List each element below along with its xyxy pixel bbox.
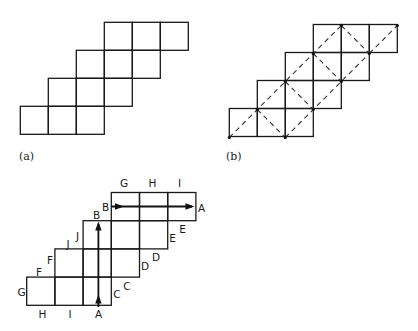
panel-b <box>228 24 399 139</box>
label-e-upper: E <box>179 223 186 235</box>
panel-c-square-r3-c1 <box>55 249 83 277</box>
label-bottom-h: H <box>39 308 47 320</box>
panel-label-b: (b) <box>226 150 242 163</box>
fold-line-dashed <box>341 26 369 54</box>
label-f-upper: F <box>47 254 53 266</box>
panel-c-square-r2-c2 <box>111 221 139 249</box>
label-bottom-i: I <box>68 308 71 320</box>
label-d-lower: D <box>141 260 149 272</box>
panel-c-square-r3-c3 <box>111 249 139 277</box>
label-e-lower: E <box>169 232 176 244</box>
vertex-dot <box>256 108 259 111</box>
panel-c-square-r4-c1 <box>27 277 55 305</box>
fold-line-dashed <box>285 82 313 110</box>
label-c-upper: C <box>123 280 130 292</box>
fold-line-dashed <box>369 26 397 54</box>
panel-c-square-r2-c3 <box>140 221 168 249</box>
panel-b-square-r1-c3 <box>369 25 397 53</box>
panel-b-square-r4-c3 <box>285 109 313 137</box>
panel-a-square-r3-c3 <box>104 78 132 106</box>
fold-line-dashed <box>257 110 285 138</box>
fold-line-dashed <box>313 54 341 82</box>
vertex-dot <box>340 80 343 83</box>
panel-b-square-r2-c1 <box>285 53 313 81</box>
panel-a-square-r4-c2 <box>48 106 76 134</box>
vertex-dot <box>228 136 231 139</box>
figure-canvas: (a) (b) G H I B A B J J F F G H I A C C … <box>0 0 418 331</box>
panel-b-square-r2-c3 <box>341 53 369 81</box>
vertical-arrow-head-bottom <box>95 295 101 304</box>
label-row2-left-b: B <box>93 209 100 221</box>
label-f-lower: F <box>36 266 42 278</box>
label-d-upper: D <box>152 251 160 263</box>
panel-a-square-r3-c2 <box>76 78 104 106</box>
panel-b-square-r3-c2 <box>285 81 313 109</box>
panel-a-square-r2-c2 <box>104 50 132 78</box>
vertex-dot <box>284 136 287 139</box>
label-j-upper: J <box>75 230 79 242</box>
vertex-dot <box>312 108 315 111</box>
label-top-i: I <box>178 177 181 189</box>
panel-a-square-r4-c3 <box>76 106 104 134</box>
label-top-row-left-b: B <box>102 201 109 213</box>
horizontal-arrow-head-left <box>115 203 124 209</box>
vertex-dot <box>396 24 399 27</box>
label-j-lower: J <box>65 238 69 250</box>
label-c-lower: C <box>113 288 120 300</box>
vertex-dot <box>340 24 343 27</box>
label-bottom-left-g: G <box>17 286 25 298</box>
panel-a-square-r1-c2 <box>132 22 160 50</box>
horizontal-arrow-head-right <box>186 203 195 209</box>
panel-c <box>27 193 196 308</box>
panel-b-square-r3-c3 <box>313 81 341 109</box>
vertex-dot <box>368 52 371 55</box>
panel-a-square-r4-c1 <box>20 106 48 134</box>
panel-a-square-r3-c1 <box>48 78 76 106</box>
panel-a-square-r2-c1 <box>76 50 104 78</box>
label-bottom-a: A <box>95 308 103 320</box>
panel-label-a: (a) <box>19 150 34 163</box>
panel-b-square-r2-c2 <box>313 53 341 81</box>
fold-line-dashed <box>285 54 369 138</box>
panel-a-square-r2-c3 <box>132 50 160 78</box>
vertical-arrow-head-top <box>95 222 101 231</box>
panel-b-square-r1-c1 <box>313 25 341 53</box>
vertex-dot <box>312 52 315 55</box>
label-top-g: G <box>120 177 128 189</box>
panel-c-square-r4-c2 <box>55 277 83 305</box>
panel-b-square-r3-c1 <box>257 81 285 109</box>
panel-a-square-r1-c3 <box>160 22 188 50</box>
panel-b-square-r4-c1 <box>229 109 257 137</box>
panel-b-square-r4-c2 <box>257 109 285 137</box>
panel-b-square-r1-c2 <box>341 25 369 53</box>
label-top-h: H <box>149 177 157 189</box>
panel-c-square-r3-c2 <box>83 249 111 277</box>
vertex-dot <box>284 80 287 83</box>
panel-a <box>20 22 188 134</box>
panel-a-square-r1-c1 <box>104 22 132 50</box>
label-top-row-right-a: A <box>198 202 206 214</box>
